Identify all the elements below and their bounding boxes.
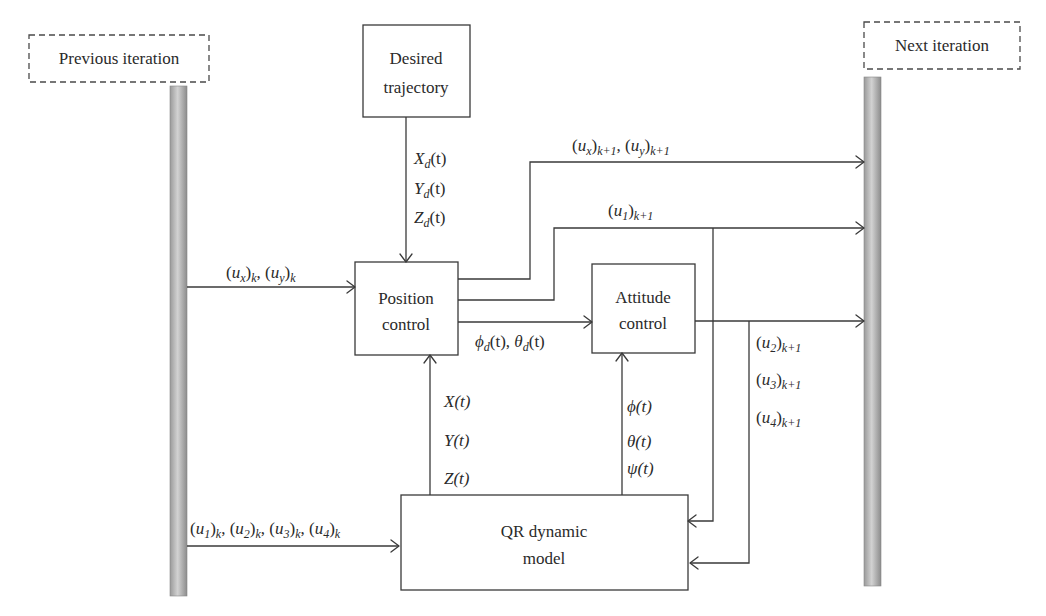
signal-next-uxuy: (ux)k+1, (uy)k+1 (572, 136, 670, 158)
signal-y: Y(t) (444, 431, 470, 450)
attitude-control-line2: control (619, 314, 667, 333)
signal-x: X(t) (443, 392, 471, 411)
previous-iteration-text: Previous iteration (59, 49, 180, 68)
signal-xd: Xd(t) (413, 149, 446, 171)
desired-trajectory-line2: trajectory (383, 78, 449, 97)
signal-u4: (u4)k+1 (756, 408, 801, 430)
signal-u3: (u3)k+1 (756, 370, 801, 392)
signal-prev-uxuy: (ux)k, (uy)k (226, 263, 296, 285)
position-feedback-signals: X(t) Y(t) Z(t) (443, 392, 471, 488)
ilc-block-diagram: Previous iteration Next iteration Desire… (0, 0, 1046, 616)
attitude-control-block: Attitude control (592, 264, 695, 353)
previous-iteration-bar (170, 86, 187, 596)
next-iteration-text: Next iteration (895, 36, 989, 55)
qr-dynamic-model-block: QR dynamic model (401, 495, 688, 590)
position-control-line2: control (382, 315, 430, 334)
attitude-control-line1: Attitude (615, 288, 671, 307)
signal-theta: θ(t) (627, 432, 652, 451)
wire-position-to-next-uxuy (458, 162, 864, 279)
qr-model-line2: model (523, 549, 566, 568)
signal-desired-angles: ϕd(t), θd(t) (475, 332, 545, 354)
signal-prev-u1-u4: (u1)k, (u2)k, (u3)k, (u4)k (190, 519, 341, 541)
next-iteration-label: Next iteration (864, 22, 1020, 69)
desired-trajectory-block: Desired trajectory (363, 25, 470, 117)
signal-psi: ψ(t) (627, 459, 654, 478)
attitude-output-signals: (u2)k+1 (u3)k+1 (u4)k+1 (756, 333, 801, 430)
signal-zd: Zd(t) (414, 208, 446, 230)
desired-signals: Xd(t) Yd(t) Zd(t) (413, 149, 446, 230)
wire-attitude-to-model (690, 321, 749, 563)
signal-u2: (u2)k+1 (756, 333, 801, 355)
qr-model-line1: QR dynamic (501, 522, 588, 541)
previous-iteration-label: Previous iteration (29, 35, 209, 82)
position-control-block: Position control (355, 262, 458, 355)
position-control-line1: Position (378, 289, 434, 308)
signal-next-u1: (u1)k+1 (608, 201, 653, 223)
signal-z: Z(t) (444, 469, 470, 488)
attitude-feedback-signals: ϕ(t) θ(t) ψ(t) (627, 397, 654, 478)
desired-trajectory-line1: Desired (390, 49, 443, 68)
next-iteration-bar (864, 77, 881, 586)
signal-phi: ϕ(t) (627, 397, 652, 416)
signal-yd: Yd(t) (414, 179, 446, 201)
